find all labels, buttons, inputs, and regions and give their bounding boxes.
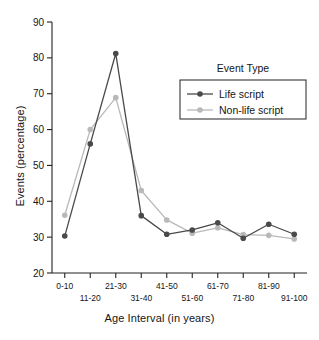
series-life-script — [62, 51, 297, 241]
data-point — [62, 212, 68, 218]
chart-figure: 2030405060708090 0-1011-2021-3031-4041-5… — [0, 0, 319, 340]
data-point — [240, 235, 246, 241]
x-axis-ticks — [65, 273, 295, 278]
y-tick-label: 80 — [33, 52, 45, 63]
y-tick-label: 40 — [33, 196, 45, 207]
legend-title: Event Type — [217, 62, 270, 74]
data-point — [215, 220, 221, 226]
x-tick-label: 61-70 — [207, 281, 229, 291]
legend-item-label: Life script — [219, 88, 264, 100]
x-axis-title: Age Interval (in years) — [0, 312, 319, 324]
y-tick-label: 30 — [33, 232, 45, 243]
data-point — [189, 227, 195, 233]
data-point — [87, 127, 93, 133]
data-point — [266, 233, 272, 239]
x-axis: 0-1011-2021-3031-4041-5051-6061-7071-808… — [52, 273, 308, 303]
data-point — [215, 225, 221, 231]
x-axis-category-labels: 0-1011-2021-3031-4041-5051-6061-7071-808… — [56, 281, 308, 303]
y-tick-label: 90 — [33, 17, 45, 28]
data-point — [113, 51, 119, 57]
y-axis-title: Events (percentage) — [14, 76, 26, 236]
data-point — [138, 188, 144, 194]
x-tick-label: 51-60 — [181, 293, 203, 303]
y-tick-label: 50 — [33, 160, 45, 171]
x-tick-label: 91-100 — [281, 293, 308, 303]
chart-legend: Event Type Life scriptNon-life script — [180, 62, 306, 119]
data-point — [164, 231, 170, 237]
x-tick-label: 31-40 — [130, 293, 152, 303]
y-axis-ticks: 2030405060708090 — [33, 17, 52, 279]
y-tick-label: 20 — [33, 268, 45, 279]
x-tick-label: 81-90 — [258, 281, 280, 291]
line-chart-plot: 2030405060708090 0-1011-2021-3031-4041-5… — [0, 0, 319, 340]
data-point — [62, 233, 68, 239]
x-tick-label: 0-10 — [56, 281, 73, 291]
data-point — [113, 95, 119, 101]
x-tick-label: 11-20 — [80, 293, 101, 303]
legend-item-label: Non-life script — [219, 104, 283, 116]
x-tick-label: 41-50 — [156, 281, 178, 291]
y-tick-label: 60 — [33, 124, 45, 135]
y-axis: 2030405060708090 — [33, 17, 52, 279]
data-point — [87, 141, 93, 147]
data-point — [266, 221, 272, 227]
data-point — [291, 231, 297, 237]
data-point — [164, 217, 170, 223]
data-series-layer — [62, 51, 297, 242]
data-point — [138, 213, 144, 219]
legend-marker-icon — [197, 91, 203, 97]
y-tick-label: 70 — [33, 88, 45, 99]
x-tick-label: 71-80 — [232, 293, 254, 303]
x-tick-label: 21-30 — [105, 281, 127, 291]
legend-marker-icon — [197, 107, 203, 113]
